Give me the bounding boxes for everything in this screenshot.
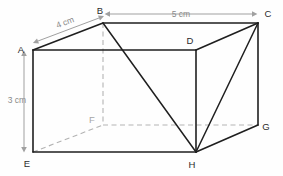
diagonal-ch — [196, 23, 258, 152]
dimension-label-width-top: 5 cm — [172, 9, 190, 19]
dimension-label-height-left: 3 cm — [8, 95, 26, 105]
solid-edges-group — [33, 23, 258, 152]
vertex-label-d: D — [187, 35, 194, 46]
dimension-lines-group — [24, 14, 252, 147]
edge-cd — [196, 23, 258, 50]
vertex-label-f: F — [89, 114, 95, 125]
vertex-label-c: C — [265, 8, 272, 19]
diagonal-edges-group — [103, 23, 258, 152]
vertex-labels-group: ABCDEFGH — [18, 5, 272, 170]
edge-hg — [196, 125, 258, 152]
edge-ab — [33, 23, 103, 50]
hidden-edge-ef — [33, 125, 103, 152]
vertex-label-g: G — [262, 121, 269, 132]
diagonal-bh — [103, 23, 196, 152]
hidden-edges-group — [33, 23, 258, 152]
diagram-canvas: 5 cm4 cm3 cm ABCDEFGH — [0, 0, 283, 176]
vertex-label-e: E — [24, 158, 30, 169]
vertex-label-b: B — [97, 5, 103, 16]
vertex-label-a: A — [18, 44, 25, 55]
vertex-label-h: H — [189, 159, 196, 170]
cuboid-figure: 5 cm4 cm3 cm ABCDEFGH — [0, 0, 283, 176]
